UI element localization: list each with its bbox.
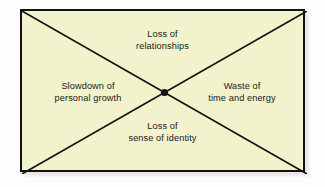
quadrant-label-bottom-line1: Loss of <box>22 121 303 133</box>
quadrant-label-bottom-line2: sense of identity <box>22 133 303 145</box>
quadrant-label-right: Waste of time and energy <box>184 81 300 104</box>
quadrant-label-top-line2: relationships <box>22 41 303 53</box>
quadrant-label-left-line1: Slowdown of <box>30 81 146 93</box>
quadrant-label-top-line1: Loss of <box>22 29 303 41</box>
diagram-box: Loss of relationships Slowdown of person… <box>20 9 305 172</box>
quadrant-label-right-line2: time and energy <box>184 93 300 105</box>
diagram-canvas: Loss of relationships Slowdown of person… <box>0 0 325 187</box>
quadrant-label-top: Loss of relationships <box>22 29 303 52</box>
quadrant-label-right-line1: Waste of <box>184 81 300 93</box>
quadrant-label-left-line2: personal growth <box>30 93 146 105</box>
quadrant-label-left: Slowdown of personal growth <box>30 81 146 104</box>
quadrant-label-bottom: Loss of sense of identity <box>22 121 303 144</box>
center-dot-icon <box>161 89 168 96</box>
